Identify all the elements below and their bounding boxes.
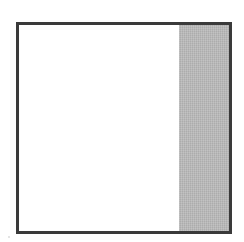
shaded-region [179,25,229,231]
unshaded-region [19,25,179,231]
square-outline [16,22,232,234]
scan-speck [8,236,10,238]
